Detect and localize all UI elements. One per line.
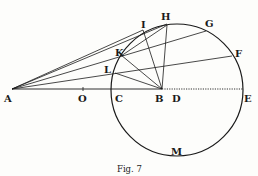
label-O: O <box>78 93 87 104</box>
label-D: D <box>172 93 181 104</box>
label-H: H <box>161 11 170 22</box>
label-E: E <box>244 93 252 104</box>
label-B: B <box>155 93 163 104</box>
label-C: C <box>115 93 123 104</box>
label-I: I <box>141 19 146 30</box>
geometry-diagram: A O C B D E F G H I K L M Fig. 7 <box>0 0 258 176</box>
line-AI <box>12 30 143 89</box>
label-A: A <box>3 93 12 104</box>
label-K: K <box>115 47 124 58</box>
label-G: G <box>205 18 214 29</box>
label-L: L <box>104 64 111 75</box>
line-LB <box>115 73 162 89</box>
label-M: M <box>171 146 182 157</box>
line-HB <box>162 25 167 89</box>
figure-caption: Fig. 7 <box>117 164 142 174</box>
line-AF <box>12 56 232 89</box>
label-F: F <box>235 48 242 59</box>
circle <box>111 24 243 156</box>
line-AH <box>12 24 167 89</box>
line-AG <box>12 31 206 89</box>
